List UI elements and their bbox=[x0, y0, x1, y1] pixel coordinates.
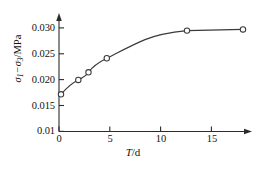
x-axis-arrow-icon bbox=[244, 129, 252, 135]
x-tick-label: 5 bbox=[98, 133, 122, 144]
x-tick-marks bbox=[59, 127, 211, 132]
chart-figure: 0.030 0.025 0.020 0.015 0.01 0 5 10 15 σ… bbox=[0, 0, 266, 169]
data-point bbox=[184, 28, 189, 33]
x-tick-label: 15 bbox=[200, 133, 224, 144]
y-axis-arrow-icon bbox=[56, 13, 62, 21]
y-tick-marks bbox=[59, 28, 64, 131]
data-curve bbox=[61, 29, 243, 94]
x-tick-label: 0 bbox=[47, 133, 71, 144]
y-axis-label-unit: /MPa bbox=[12, 35, 23, 58]
data-point bbox=[76, 77, 81, 82]
y-tick-label: 0.025 bbox=[22, 48, 55, 59]
y-axis-label-sigma3: σ bbox=[12, 61, 23, 66]
y-tick-label: 0.015 bbox=[22, 100, 55, 111]
y-tick-label: 0.020 bbox=[22, 74, 55, 85]
y-axis-label: σ1−σ3/MPa bbox=[12, 11, 25, 107]
x-axis-label-unit-d: d bbox=[135, 146, 141, 158]
data-point bbox=[240, 27, 245, 32]
data-point bbox=[58, 92, 63, 97]
data-point bbox=[86, 70, 91, 75]
x-tick-label: 10 bbox=[149, 133, 173, 144]
y-tick-label: 0.030 bbox=[22, 22, 55, 33]
data-point bbox=[104, 56, 109, 61]
y-axis-label-sigma1: σ bbox=[12, 77, 23, 82]
y-axis-label-sub1: 1 bbox=[16, 73, 25, 77]
y-axis-label-minus: − bbox=[12, 66, 23, 73]
x-axis-label: T/d bbox=[0, 146, 266, 158]
y-axis-label-sub3: 3 bbox=[16, 57, 25, 61]
